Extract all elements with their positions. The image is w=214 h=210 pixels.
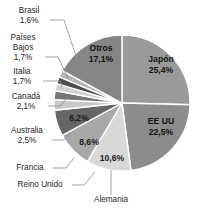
label-paises-bajos-pct: 1,7% bbox=[14, 53, 33, 62]
label-italia-name: Italia bbox=[13, 67, 31, 76]
label-alemania-pct: 10,6% bbox=[100, 153, 125, 163]
label-reino-unido-name: Reino Unido bbox=[17, 180, 63, 189]
label-italia-pct: 1,7% bbox=[13, 77, 32, 86]
label-brasil-pct: 1,6% bbox=[20, 16, 39, 25]
leader-line-reino-unido bbox=[72, 172, 95, 185]
label-reino-unido-pct: 8,6% bbox=[79, 137, 99, 147]
label-eeuu-name: EE UU bbox=[148, 116, 174, 126]
label-paises-bajos-line1: Países bbox=[10, 33, 35, 42]
label-canada-pct: 2,1% bbox=[17, 102, 36, 111]
label-francia-pct: 6,2% bbox=[69, 113, 89, 123]
label-alemania-name: Alemania bbox=[94, 195, 129, 204]
label-canada-name: Canadá bbox=[12, 92, 41, 101]
label-otros-name: Otros bbox=[90, 43, 113, 53]
label-australia-name: Australia bbox=[11, 126, 43, 135]
pie-chart-figure: Brasil 1,6% Países Bajos 1,7% Italia 1,7… bbox=[0, 0, 214, 210]
label-australia-pct: 2,5% bbox=[18, 136, 37, 145]
label-japon-name: Japón bbox=[148, 54, 173, 64]
label-japon-pct: 25,4% bbox=[149, 65, 174, 75]
label-otros-pct: 17,1% bbox=[89, 54, 114, 64]
label-eeuu-pct: 22,5% bbox=[149, 127, 174, 137]
pie-chart-canvas: Brasil 1,6% Países Bajos 1,7% Italia 1,7… bbox=[0, 0, 214, 210]
label-paises-bajos-line2: Bajos bbox=[13, 43, 33, 52]
label-francia-name: Francia bbox=[16, 163, 44, 172]
label-brasil-name: Brasil bbox=[19, 6, 40, 15]
leader-line-francia bbox=[53, 158, 74, 168]
